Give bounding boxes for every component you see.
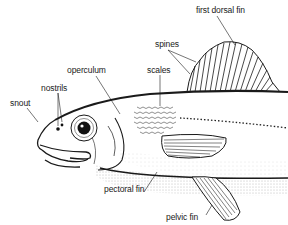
label-spines: spines — [155, 40, 179, 49]
scales-pattern — [134, 107, 176, 134]
pectoral-fin-shape — [162, 134, 227, 158]
nostrils-shape — [56, 124, 63, 131]
label-pectoral-fin: pectoral fin — [104, 185, 144, 194]
label-operculum: operculum — [67, 66, 106, 75]
label-snout: snout — [10, 99, 30, 108]
fish-anatomy-diagram: first dorsal fin spines scales operculum… — [0, 0, 288, 225]
label-nostrils: nostrils — [41, 84, 67, 93]
label-first-dorsal-fin: first dorsal fin — [196, 6, 245, 15]
label-scales: scales — [147, 66, 171, 75]
first-dorsal-fin-shape — [187, 42, 280, 92]
label-pelvic-fin: pelvic fin — [166, 213, 198, 222]
eye — [71, 115, 97, 141]
lateral-line — [180, 118, 288, 128]
